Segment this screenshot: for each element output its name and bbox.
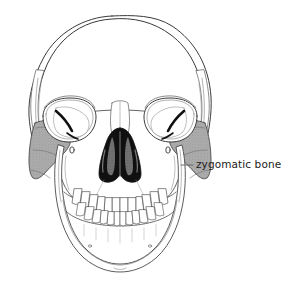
skull-illustration-figure: zygomatic bone	[0, 0, 281, 288]
mental-foramen-right	[148, 245, 151, 247]
infraorbital-foramen-left	[70, 147, 74, 153]
label-zygomatic-bone: zygomatic bone	[196, 158, 281, 171]
infraorbital-foramen-right	[166, 147, 170, 153]
skull-diagram	[0, 0, 281, 288]
lower-teeth-root-lines	[84, 224, 156, 243]
mental-foramen-left	[88, 245, 91, 247]
